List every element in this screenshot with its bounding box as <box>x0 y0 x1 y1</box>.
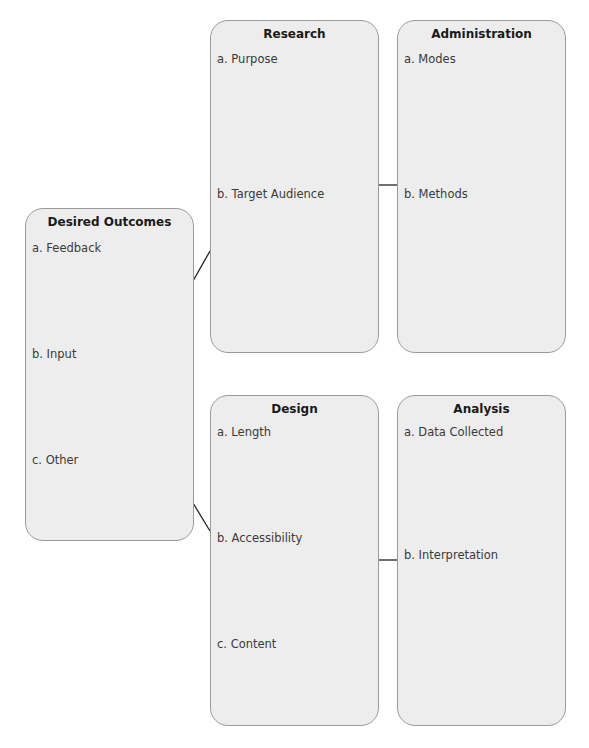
research-item-target-audience: b. Target Audience <box>217 187 324 201</box>
desired-outcomes-item-feedback: a. Feedback <box>32 241 101 255</box>
research-item-purpose: a. Purpose <box>217 52 278 66</box>
desired-outcomes-item-other: c. Other <box>32 453 78 467</box>
research-box: Research a. Purpose b. Target Audience <box>210 20 379 353</box>
desired-outcomes-title: Desired Outcomes <box>26 215 193 229</box>
analysis-item-data-collected: a. Data Collected <box>404 425 503 439</box>
connector-outcomes-research <box>193 251 210 281</box>
analysis-item-interpretation: b. Interpretation <box>404 548 498 562</box>
design-title: Design <box>211 402 378 416</box>
administration-item-modes: a. Modes <box>404 52 456 66</box>
design-item-length: a. Length <box>217 425 271 439</box>
design-item-content: c. Content <box>217 637 276 651</box>
analysis-title: Analysis <box>398 402 565 416</box>
analysis-box: Analysis a. Data Collected b. Interpreta… <box>397 395 566 726</box>
research-title: Research <box>211 27 378 41</box>
desired-outcomes-item-input: b. Input <box>32 347 76 361</box>
administration-box: Administration a. Modes b. Methods <box>397 20 566 353</box>
design-box: Design a. Length b. Accessibility c. Con… <box>210 395 379 726</box>
administration-title: Administration <box>398 27 565 41</box>
desired-outcomes-box: Desired Outcomes a. Feedback b. Input c.… <box>25 208 194 541</box>
administration-item-methods: b. Methods <box>404 187 468 201</box>
connector-outcomes-design <box>193 503 210 531</box>
design-item-accessibility: b. Accessibility <box>217 531 302 545</box>
